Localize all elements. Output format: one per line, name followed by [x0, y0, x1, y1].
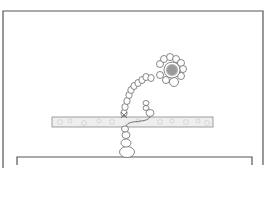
game-scene[interactable]: [0, 0, 270, 201]
flower-petal[interactable]: [157, 72, 164, 79]
flower-cluster[interactable]: [157, 54, 187, 87]
pebble[interactable]: [120, 147, 135, 158]
small-pebble[interactable]: [146, 110, 154, 117]
pebble[interactable]: [122, 132, 130, 139]
ground-line: [17, 157, 252, 165]
ground-box: [17, 157, 252, 165]
pebble[interactable]: [121, 139, 131, 147]
pebble-base-stack[interactable]: [120, 126, 135, 158]
small-pebble-stack[interactable]: [143, 101, 154, 117]
flower-petal[interactable]: [170, 78, 179, 87]
small-pebble[interactable]: [143, 101, 149, 106]
flower-core[interactable]: [167, 65, 178, 76]
chain-pebble[interactable]: [148, 75, 154, 82]
flower-petal[interactable]: [180, 66, 187, 73]
pebble[interactable]: [122, 126, 129, 132]
